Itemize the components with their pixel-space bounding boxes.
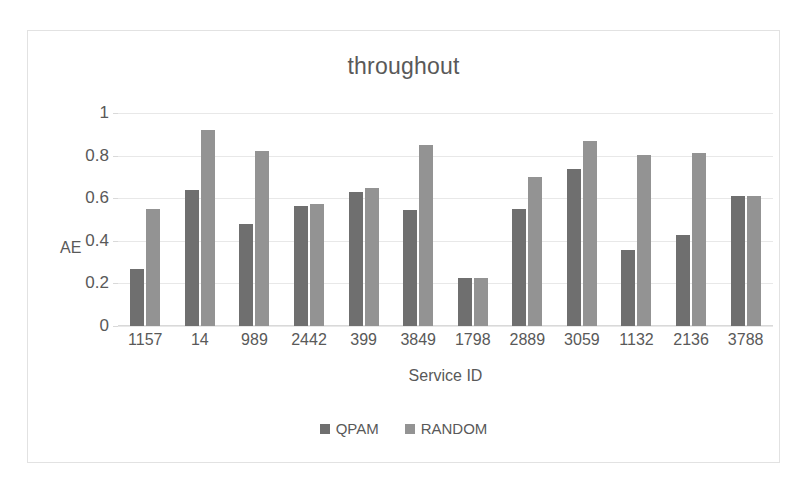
bar-group: [445, 113, 500, 326]
bars-layer: [118, 113, 773, 326]
bar-random[interactable]: [201, 130, 215, 326]
bar-qpam[interactable]: [567, 169, 581, 326]
bar-qpam[interactable]: [512, 209, 526, 326]
bar-random[interactable]: [365, 188, 379, 326]
y-tick-mark: [113, 326, 118, 327]
bar-qpam[interactable]: [185, 190, 199, 326]
y-tick-label: 0: [100, 316, 109, 336]
bar-group: [391, 113, 446, 326]
legend-label: RANDOM: [421, 420, 488, 437]
chart-legend: QPAMRANDOM: [28, 420, 779, 437]
bar-qpam[interactable]: [403, 210, 417, 326]
x-tick-label: 1157: [118, 331, 173, 349]
bar-random[interactable]: [637, 155, 651, 326]
gridline: [118, 326, 773, 327]
bar-group: [500, 113, 555, 326]
bar-group: [609, 113, 664, 326]
bar-random[interactable]: [146, 209, 160, 326]
y-tick-label: 0.2: [85, 273, 109, 293]
x-tick-label: 2889: [500, 331, 555, 349]
bar-group: [718, 113, 773, 326]
legend-label: QPAM: [336, 420, 379, 437]
chart-frame: throughout AE 00.20.40.60.81 11571498924…: [27, 30, 780, 463]
bar-qpam[interactable]: [294, 206, 308, 326]
x-tick-label: 2136: [664, 331, 719, 349]
bar-qpam[interactable]: [676, 235, 690, 326]
bar-random[interactable]: [474, 278, 488, 326]
x-tick-label: 989: [227, 331, 282, 349]
x-tick-label: 1132: [609, 331, 664, 349]
bar-group: [555, 113, 610, 326]
bar-random[interactable]: [255, 151, 269, 326]
bar-qpam[interactable]: [621, 250, 635, 326]
legend-swatch-icon: [320, 424, 330, 434]
bar-random[interactable]: [310, 204, 324, 326]
bar-group: [664, 113, 719, 326]
bar-qpam[interactable]: [458, 278, 472, 326]
x-tick-label: 399: [336, 331, 391, 349]
bar-random[interactable]: [747, 196, 761, 326]
bar-group: [173, 113, 228, 326]
bar-group: [118, 113, 173, 326]
y-tick-label: 0.4: [85, 230, 109, 250]
legend-swatch-icon: [405, 424, 415, 434]
x-tick-label: 3788: [718, 331, 773, 349]
bar-random[interactable]: [528, 177, 542, 326]
plot-area: 00.20.40.60.81: [118, 113, 773, 326]
x-tick-label: 3849: [391, 331, 446, 349]
y-tick-label: 0.8: [85, 145, 109, 165]
legend-entry-random[interactable]: RANDOM: [405, 420, 488, 437]
x-axis-tick-labels: 1157149892442399384917982889305911322136…: [118, 331, 773, 349]
x-axis-title: Service ID: [118, 367, 773, 385]
x-tick-label: 1798: [445, 331, 500, 349]
legend-entry-qpam[interactable]: QPAM: [320, 420, 379, 437]
y-tick-label: 1: [100, 103, 109, 123]
bar-group: [336, 113, 391, 326]
x-tick-label: 2442: [282, 331, 337, 349]
bar-random[interactable]: [583, 141, 597, 326]
bar-group: [282, 113, 337, 326]
bar-qpam[interactable]: [731, 196, 745, 326]
bar-group: [227, 113, 282, 326]
y-tick-label: 0.6: [85, 188, 109, 208]
x-tick-label: 14: [173, 331, 228, 349]
bar-random[interactable]: [692, 153, 706, 326]
chart-title: throughout: [28, 53, 779, 80]
bar-qpam[interactable]: [130, 269, 144, 327]
bar-qpam[interactable]: [239, 224, 253, 326]
x-tick-label: 3059: [555, 331, 610, 349]
bar-qpam[interactable]: [349, 192, 363, 326]
bar-random[interactable]: [419, 145, 433, 326]
y-axis-title: AE: [60, 239, 81, 257]
